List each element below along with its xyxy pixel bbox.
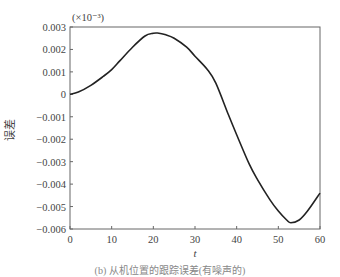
y-tick-label: −0.001	[36, 112, 66, 123]
figure-caption: (b) 从机位置的跟踪误差(有噪声的)	[0, 262, 340, 277]
y-tick-label: −0.006	[36, 224, 66, 235]
series-line	[70, 33, 320, 223]
error-curve	[70, 33, 320, 223]
y-tick-label: −0.005	[36, 202, 66, 213]
y-axis-ticks: 0.0030.0020.0010−0.001−0.002−0.003−0.004…	[36, 22, 73, 235]
x-axis-title: t	[193, 247, 197, 259]
y-tick-label: 0	[61, 89, 66, 100]
x-tick-label: 50	[273, 234, 284, 245]
y-tick-label: 0.001	[42, 67, 66, 78]
x-tick-label: 10	[106, 234, 117, 245]
y-axis-title: 误差	[3, 119, 16, 141]
x-tick-label: 30	[190, 234, 201, 245]
x-tick-label: 60	[315, 234, 326, 245]
y-tick-label: 0.002	[42, 44, 66, 55]
y-tick-label: 0.003	[42, 22, 66, 33]
y-tick-label: −0.003	[36, 157, 66, 168]
x-tick-label: 20	[148, 234, 159, 245]
x-tick-label: 0	[67, 234, 72, 245]
y-tick-label: −0.002	[36, 134, 66, 145]
y-tick-label: −0.004	[36, 179, 66, 190]
y-scale-annotation: (×10⁻³)	[72, 12, 105, 24]
x-tick-label: 40	[231, 234, 242, 245]
